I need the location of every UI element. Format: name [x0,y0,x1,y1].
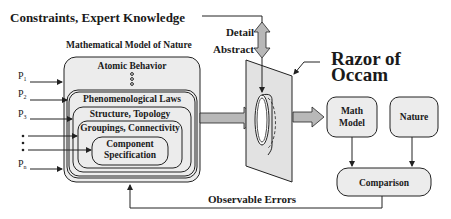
label-groupings-connectivity: Groupings, Connectivity [80,123,180,133]
label-component-line1: Component [106,139,154,149]
svg-text:P2: P2 [18,88,27,100]
label-comparison: Comparison [359,178,410,188]
label-detail: Detail [226,26,254,38]
constraints-connector [202,16,262,24]
math-model-box [327,97,377,137]
title-constraints: Constraints, Expert Knowledge [10,10,185,25]
razor-to-math-arrow [293,107,324,127]
label-component-line2: Specification [104,150,157,160]
label-math: Math [341,106,364,116]
label-razor-line2: Occam [331,64,388,85]
svg-text:Pn: Pn [18,158,27,170]
razor-pointer [294,62,320,74]
label-phenomenological-laws: Phenomenological Laws [83,94,181,104]
label-abstract: Abstract [213,43,254,55]
detail-abstract-double-arrow [254,22,270,58]
label-nature: Nature [400,112,428,122]
label-atomic-behavior: Atomic Behavior [98,61,168,71]
svg-text:P3: P3 [18,108,27,120]
svg-text:P1: P1 [18,70,27,82]
label-model: Model [339,118,365,128]
label-observable-errors: Observable Errors [208,193,297,205]
model-heading: Mathematical Model of Nature [66,40,192,50]
label-structure-topology: Structure, Topology [90,109,171,119]
